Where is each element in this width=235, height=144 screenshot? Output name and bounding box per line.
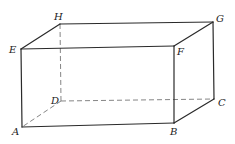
visible-edges bbox=[21, 22, 214, 127]
edge-HD bbox=[60, 24, 61, 101]
edge-HG bbox=[60, 22, 213, 24]
vertex-label-B: B bbox=[169, 126, 177, 137]
edge-BA bbox=[22, 123, 174, 127]
edge-EF bbox=[21, 46, 174, 49]
edge-GC bbox=[213, 22, 214, 99]
vertex-labels: A B C D E F G H bbox=[8, 11, 226, 137]
edge-EH bbox=[21, 24, 60, 49]
edge-CB bbox=[174, 99, 214, 123]
edge-GF bbox=[174, 22, 213, 46]
vertex-label-F: F bbox=[176, 46, 185, 57]
vertex-label-E: E bbox=[8, 44, 17, 55]
vertex-label-D: D bbox=[50, 95, 59, 106]
vertex-label-C: C bbox=[218, 97, 226, 108]
rectangular-prism-diagram: A B C D E F G H bbox=[0, 0, 235, 144]
edge-AE bbox=[21, 49, 22, 127]
vertex-label-G: G bbox=[216, 13, 224, 24]
vertex-label-H: H bbox=[53, 11, 63, 22]
edge-DC bbox=[61, 99, 214, 101]
vertex-label-A: A bbox=[11, 126, 19, 137]
